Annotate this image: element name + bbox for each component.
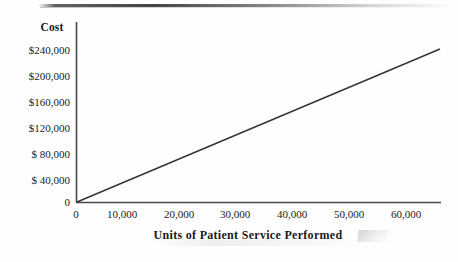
scan-artifact-baseline [150, 240, 365, 246]
y-tick-200000: $200,000 [12, 70, 70, 84]
scan-artifact-smudge [357, 230, 389, 242]
chart-screenshot: Cost $240,000 $200,000 $160,000 $120,000… [0, 0, 458, 262]
y-tick-label: $ 40,000 [12, 174, 70, 186]
x-tick-60000: 60,000 [371, 208, 441, 220]
y-tick-240000: $240,000 [12, 44, 70, 58]
cost-line-series [77, 49, 440, 202]
y-tick-label: $240,000 [12, 44, 70, 56]
y-tick-40000: $ 40,000 [12, 174, 70, 188]
y-tick-label: $120,000 [12, 122, 70, 134]
y-tick-160000: $160,000 [12, 96, 70, 110]
y-tick-label: $200,000 [12, 70, 70, 82]
cost-behavior-chart: Cost $240,000 $200,000 $160,000 $120,000… [0, 0, 458, 262]
y-tick-label: 0 [12, 196, 70, 208]
y-tick-80000: $ 80,000 [12, 148, 70, 162]
y-tick-label: $ 80,000 [12, 148, 70, 160]
y-tick-120000: $120,000 [12, 122, 70, 136]
y-axis-title: Cost [30, 21, 74, 33]
y-tick-label: $160,000 [12, 96, 70, 108]
